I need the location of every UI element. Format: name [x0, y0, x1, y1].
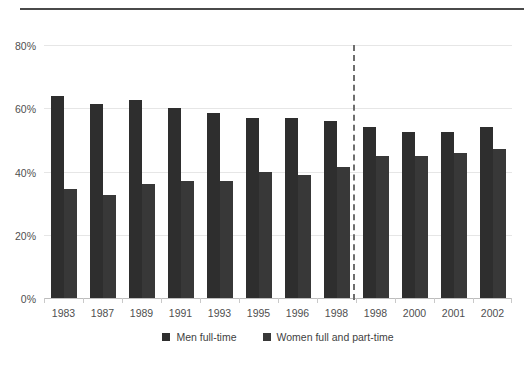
- bar-groups: [44, 45, 512, 298]
- bar: [415, 156, 428, 298]
- bar: [90, 104, 103, 298]
- bar-group: [278, 45, 317, 298]
- bar: [441, 132, 454, 298]
- x-axis-ticks: [44, 298, 512, 304]
- bar: [376, 156, 389, 298]
- x-axis-tick: [200, 298, 239, 304]
- x-axis-tick-label: 1998: [356, 307, 395, 319]
- x-axis-tick-label: 1987: [83, 307, 122, 319]
- x-axis-tick: [434, 298, 473, 304]
- y-axis-tick-label: 40%: [15, 167, 36, 179]
- bar-group: [200, 45, 239, 298]
- bar: [129, 100, 142, 298]
- x-axis-tick-label: 1995: [239, 307, 278, 319]
- bar-group: [122, 45, 161, 298]
- bar-group: [161, 45, 200, 298]
- legend-swatch-icon: [263, 333, 271, 341]
- y-axis-tick-label: 0%: [21, 293, 36, 305]
- bar: [454, 153, 467, 298]
- x-axis-tick-label: 1996: [278, 307, 317, 319]
- chart-figure: 80%60%40%20%0% 1983198719891991199319951…: [0, 0, 524, 371]
- x-axis-tick-label: 2002: [473, 307, 512, 319]
- x-axis-tick-label: 1989: [122, 307, 161, 319]
- x-axis-tick-label: 1993: [200, 307, 239, 319]
- legend-label: Men full-time: [176, 331, 236, 343]
- bar: [64, 189, 77, 298]
- bar: [402, 132, 415, 298]
- x-axis-tick: [317, 298, 356, 304]
- legend-item[interactable]: Women full and part-time: [263, 331, 394, 343]
- bar: [246, 118, 259, 298]
- x-axis-tick: [44, 298, 83, 304]
- bar: [220, 181, 233, 298]
- x-axis-tick: [83, 298, 122, 304]
- x-axis-tick-label: 1998: [317, 307, 356, 319]
- x-axis-tick: [122, 298, 161, 304]
- x-axis-tick: [473, 298, 512, 304]
- x-axis-tick-label: 1983: [44, 307, 83, 319]
- bar: [259, 172, 272, 299]
- bar-group: [239, 45, 278, 298]
- x-axis-tick: [395, 298, 434, 304]
- y-axis-tick-label: 80%: [15, 40, 36, 52]
- bar: [363, 127, 376, 298]
- bar: [324, 121, 337, 298]
- x-axis-tick: [161, 298, 200, 304]
- bar-group: [473, 45, 512, 298]
- chart-legend: Men full-timeWomen full and part-time: [44, 331, 512, 343]
- x-axis-tick: [356, 298, 395, 304]
- bar-group: [395, 45, 434, 298]
- legend-swatch-icon: [162, 333, 170, 341]
- x-axis-tick: [239, 298, 278, 304]
- x-axis-labels: 1983198719891991199319951996199819982000…: [44, 307, 512, 319]
- bar: [142, 184, 155, 298]
- x-axis-tick-label: 1991: [161, 307, 200, 319]
- y-axis-tick-label: 60%: [15, 103, 36, 115]
- bar: [493, 149, 506, 298]
- legend-label: Women full and part-time: [277, 331, 394, 343]
- top-rule: [20, 8, 524, 10]
- bar: [207, 113, 220, 298]
- bar-group: [317, 45, 356, 298]
- bar-group: [83, 45, 122, 298]
- bar-group: [44, 45, 83, 298]
- bar: [298, 175, 311, 298]
- bar: [285, 118, 298, 298]
- bar: [103, 195, 116, 298]
- x-axis-tick-label: 2001: [434, 307, 473, 319]
- bar: [51, 96, 64, 298]
- plot-area: 80%60%40%20%0%: [44, 45, 512, 298]
- bar-group: [434, 45, 473, 298]
- y-axis-tick-label: 20%: [15, 230, 36, 242]
- bar: [168, 108, 181, 298]
- bar-group: [356, 45, 395, 298]
- bar: [181, 181, 194, 298]
- legend-item[interactable]: Men full-time: [162, 331, 236, 343]
- bar: [480, 127, 493, 298]
- x-axis-tick: [278, 298, 317, 304]
- bar: [337, 167, 350, 298]
- period-divider-dashed-line: [353, 45, 355, 300]
- x-axis-tick-label: 2000: [395, 307, 434, 319]
